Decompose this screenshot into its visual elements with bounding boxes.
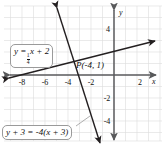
x-tick--6: -6	[42, 78, 49, 87]
y-axis-label: y	[118, 8, 123, 17]
callout-leader-lines	[36, 61, 90, 126]
equation-callout-line2: y + 3 = -4(x + 3)	[2, 125, 72, 140]
y-tick-4: 4	[106, 25, 110, 34]
y-tick--2: -2	[104, 94, 111, 103]
equation-callout-line1: y =14x + 2	[10, 44, 53, 68]
x-axis-label: x	[151, 77, 156, 86]
x-tick-2: 2	[138, 78, 142, 87]
y-tick--4: -4	[104, 117, 111, 126]
axis-lines	[10, 10, 156, 140]
point-label-P: P(-4, 1)	[76, 60, 104, 70]
equation1-suffix: x + 2	[30, 46, 49, 56]
equation1-prefix: y =	[14, 46, 26, 56]
fraction-denominator: 4	[27, 59, 30, 66]
graph-figure: -8 -6 -4 -2 2 4 -2 -4 x y P(-4, 1) y =14…	[0, 0, 164, 147]
x-tick--8: -8	[19, 78, 26, 87]
x-tick--2: -2	[88, 78, 95, 87]
x-tick--4: -4	[65, 78, 72, 87]
